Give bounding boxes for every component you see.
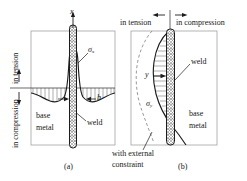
panel-a-caption: (a) bbox=[64, 163, 73, 171]
panel-b-compression-label: in compression bbox=[176, 19, 225, 27]
panel-b-caption: (b) bbox=[178, 163, 187, 171]
panel-b-sigma-y-label: σy bbox=[146, 100, 152, 108]
panel-a-base-label: base bbox=[36, 112, 50, 120]
panel-b-tension-arrow bbox=[153, 13, 166, 17]
panel-a-tension-label: in tension bbox=[12, 53, 20, 84]
panel-b-tension-label: in tension bbox=[120, 19, 151, 27]
panel-b-constraint-line2: constraint bbox=[112, 161, 144, 169]
panel-b-y-axis-label: y bbox=[145, 71, 149, 79]
panel-b-compression-arrow bbox=[175, 13, 188, 17]
panel-b-constraint-line1: with external bbox=[112, 150, 154, 158]
panel-a-x-axis-label: x bbox=[70, 8, 74, 16]
panel-b-metal-label: metal bbox=[189, 122, 207, 130]
panel-a-group bbox=[10, 12, 115, 149]
panel-a-weld-label: weld bbox=[87, 119, 103, 127]
panel-b-weld-bar bbox=[167, 29, 175, 145]
panel-b-weld-label: weld bbox=[191, 58, 207, 66]
figure-residual-stress: in tension in compression x σx b base me… bbox=[0, 0, 247, 181]
panel-b-base-label: base bbox=[189, 110, 203, 118]
panel-a-b-dimension-label: b bbox=[97, 94, 101, 102]
panel-a-compression-label: in compression bbox=[12, 99, 20, 148]
panel-a-metal-label: metal bbox=[36, 124, 54, 132]
sigma-subscript: x bbox=[92, 49, 94, 54]
panel-a-weld-bar bbox=[70, 25, 77, 148]
panel-a-sigma-x-label: σx bbox=[88, 46, 94, 54]
sigma-subscript: y bbox=[150, 103, 152, 108]
